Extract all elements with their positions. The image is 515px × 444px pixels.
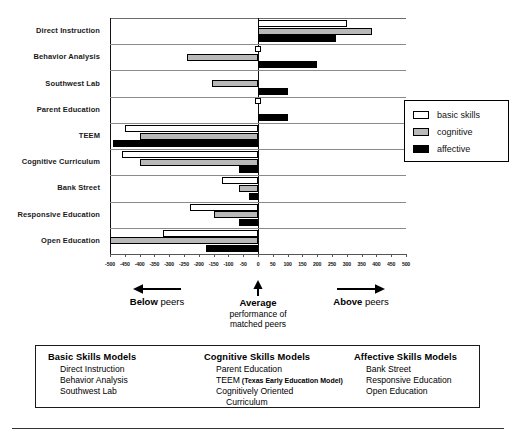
axis-tick (243, 254, 244, 257)
average-line2: performance of (198, 309, 318, 319)
axis-tick (273, 254, 274, 257)
average-line3: matched peers (198, 319, 318, 329)
category-label: Behavior Analysis (0, 52, 100, 61)
category-label: Responsive Education (0, 210, 100, 219)
legend-item-cognitive: cognitive (413, 123, 508, 140)
bar-cognitive (110, 237, 258, 244)
axis-tick (214, 254, 215, 257)
bar-affective (113, 140, 258, 147)
axis-tick (317, 254, 318, 257)
models-item: Open Education (366, 386, 457, 397)
bar-cognitive (239, 185, 258, 192)
bar-cognitive (140, 159, 258, 166)
models-column-title: Affective Skills Models (354, 352, 457, 362)
legend-swatch-basic-icon (413, 111, 429, 119)
category-axis-labels: Direct InstructionBehavior AnalysisSouth… (0, 18, 104, 254)
axis-annotations: Below peers Average performance of match… (0, 282, 515, 338)
axis-tick (110, 254, 111, 257)
bar-affective (239, 166, 258, 173)
models-column: Affective Skills ModelsBank StreetRespon… (354, 352, 457, 397)
models-legend-box: Basic Skills ModelsDirect InstructionBeh… (35, 345, 480, 408)
row-gridline (110, 175, 406, 176)
bar-cognitive (140, 133, 258, 140)
category-label: Bank Street (0, 183, 100, 192)
legend-swatch-affective-icon (413, 145, 429, 153)
average-strong: Average (239, 297, 276, 308)
models-item: Cognitively Oriented (216, 386, 343, 397)
axis-tick (140, 254, 141, 257)
legend-swatch-cognitive-icon (413, 128, 429, 136)
models-item: Curriculum (226, 397, 343, 408)
axis-tick (258, 254, 259, 257)
bar-affective (239, 219, 258, 226)
bar-affective (258, 88, 288, 95)
bar-cognitive (258, 28, 372, 35)
row-gridline (110, 228, 406, 229)
chart-legend: basic skillscognitiveaffective (404, 100, 509, 162)
legend-item-affective: affective (413, 140, 508, 157)
models-item: TEEM (Texas Early Education Model) (216, 375, 343, 386)
category-label: Direct Instruction (0, 26, 100, 35)
bar-affective (258, 114, 288, 121)
models-item: Behavior Analysis (60, 375, 136, 386)
axis-tick (347, 254, 348, 257)
axis-tick (332, 254, 333, 257)
axis-tick (362, 254, 363, 257)
bar-cognitive (187, 54, 258, 61)
axis-tick (288, 254, 289, 257)
bar-affective (249, 193, 258, 200)
models-item: Southwest Lab (60, 386, 136, 397)
above-peers-annotation: Above peers (296, 282, 426, 308)
axis-tick (406, 254, 407, 257)
bar-basic (122, 151, 258, 158)
right-arrow-icon (296, 282, 426, 296)
legend-item-basic: basic skills (413, 106, 508, 123)
bar-basic (163, 230, 258, 237)
bar-basic (258, 20, 347, 27)
category-label: Open Education (0, 236, 100, 245)
models-item: Responsive Education (366, 375, 457, 386)
models-item: Parent Education (216, 364, 343, 375)
row-gridline (110, 202, 406, 203)
category-label: Southwest Lab (0, 79, 100, 88)
axis-tick (376, 254, 377, 257)
above-peers-strong: Above (333, 296, 362, 307)
legend-label: affective (437, 144, 470, 154)
row-gridline (110, 70, 406, 71)
axis-tick (199, 254, 200, 257)
bar-basic (190, 204, 258, 211)
axis-tick-label: 500 (393, 261, 419, 267)
category-label: Cognitive Curriculum (0, 157, 100, 166)
below-peers-rest: peers (158, 296, 184, 307)
bar-basic (255, 46, 261, 52)
bar-basic (125, 125, 258, 132)
category-label: Parent Education (0, 105, 100, 114)
models-item-parenthetical: (Texas Early Education Model) (240, 377, 343, 384)
row-gridline (110, 123, 406, 124)
models-column: Basic Skills ModelsDirect InstructionBeh… (48, 352, 136, 397)
zero-reference-line (258, 18, 259, 254)
models-item: Direct Instruction (60, 364, 136, 375)
models-item: Bank Street (366, 364, 457, 375)
axis-tick (228, 254, 229, 257)
models-column: Cognitive Skills ModelsParent EducationT… (204, 352, 343, 408)
legend-label: basic skills (437, 110, 480, 120)
bar-affective (206, 245, 258, 252)
above-peers-rest: peers (362, 296, 388, 307)
row-gridline (110, 149, 406, 150)
bar-basic (222, 177, 258, 184)
bottom-divider-rule (12, 428, 504, 429)
bar-cognitive (212, 80, 258, 87)
axis-tick (391, 254, 392, 257)
axis-tick (169, 254, 170, 257)
bar-basic (255, 98, 261, 104)
bar-affective (258, 35, 336, 42)
bar-cognitive (214, 211, 258, 218)
models-column-title: Cognitive Skills Models (204, 352, 343, 362)
axis-tick (154, 254, 155, 257)
axis-tick (184, 254, 185, 257)
bar-affective (258, 61, 317, 68)
category-label: TEEM (0, 131, 100, 140)
models-column-title: Basic Skills Models (48, 352, 136, 362)
legend-label: cognitive (437, 127, 473, 137)
